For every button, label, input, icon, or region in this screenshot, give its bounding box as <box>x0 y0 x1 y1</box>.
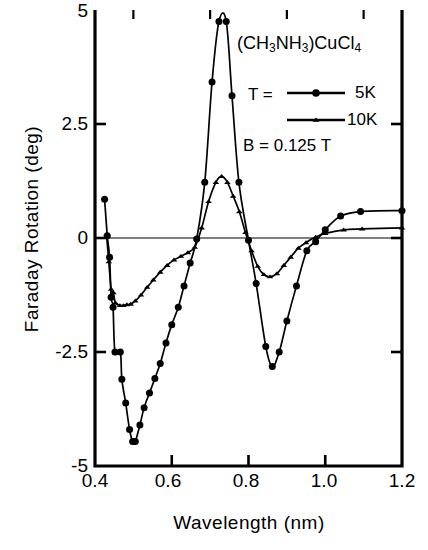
y-tick-label-0: 0 <box>26 227 88 249</box>
x-tick-label-0point6: 0.6 <box>133 470 203 492</box>
y-tick-label-minus2point5: -2.5 <box>26 341 88 363</box>
legend-marker-5k <box>287 89 345 97</box>
magnetic-field-annotation: B = 0.125 T <box>243 136 331 156</box>
temperature-legend-label: T = <box>248 85 273 105</box>
x-tick-label-1point0: 1.0 <box>289 470 359 492</box>
series-10k <box>103 174 405 307</box>
data-series-group <box>101 13 405 445</box>
x-tick-label-0point8: 0.8 <box>211 470 281 492</box>
legend-sample-lines <box>287 89 345 122</box>
legend-label-5k: 5K <box>355 83 376 103</box>
y-tick-label-5: 5 <box>26 0 88 22</box>
y-tick-label-2point5: 2.5 <box>26 113 88 135</box>
x-tick-label-1point2: 1.2 <box>367 470 428 492</box>
sample-formula-annotation: (CH3NH3)CuCl4 <box>237 33 361 54</box>
faraday-rotation-figure: Faraday Rotation (deg) Wavelength (nm) 5… <box>0 0 428 550</box>
legend-label-10k: 10K <box>347 110 377 130</box>
legend-marker-10k <box>287 117 345 121</box>
x-tick-label-0point4: 0.4 <box>60 470 130 492</box>
x-axis-title: Wavelength (nm) <box>95 512 403 534</box>
